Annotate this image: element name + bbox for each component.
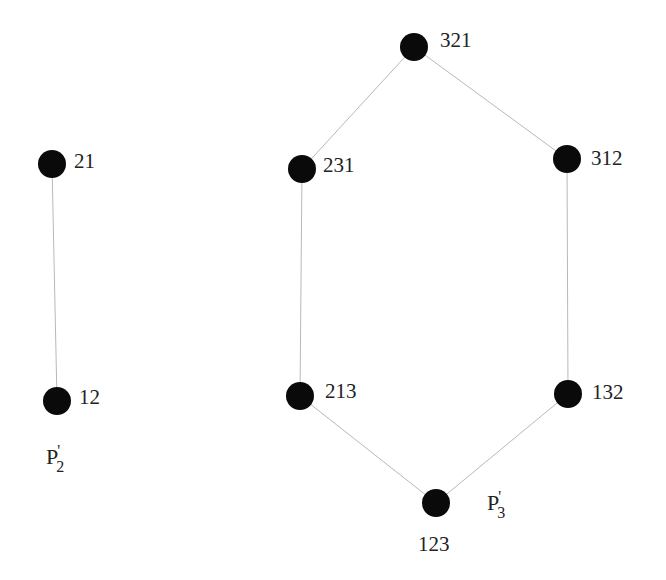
node-12 [43, 387, 71, 415]
nodes-layer [38, 33, 582, 517]
poset-label-p2-sub: 2 [56, 458, 64, 475]
edge-312-132 [567, 159, 568, 394]
hasse-diagram-canvas [0, 0, 666, 580]
poset-label-p2: P2' [46, 446, 69, 468]
node-label-12: 12 [79, 387, 100, 408]
edge-132-123 [436, 394, 568, 503]
poset-label-p3: P3' [487, 492, 510, 514]
node-label-321: 321 [440, 30, 472, 51]
edge-213-123 [300, 396, 436, 503]
node-21 [38, 150, 66, 178]
node-213 [286, 382, 314, 410]
poset-label-p2-prime: ' [57, 442, 60, 459]
node-label-123: 123 [418, 534, 450, 555]
node-312 [553, 145, 581, 173]
poset-label-p3-sub: 3 [497, 504, 505, 521]
edge-231-213 [300, 169, 302, 396]
edges-layer [52, 47, 568, 503]
node-label-132: 132 [592, 382, 624, 403]
node-label-213: 213 [325, 381, 357, 402]
node-132 [554, 380, 582, 408]
node-123 [422, 489, 450, 517]
node-label-231: 231 [323, 155, 355, 176]
node-label-312: 312 [591, 148, 623, 169]
edge-21-12 [52, 164, 57, 401]
node-label-21: 21 [74, 151, 95, 172]
edge-321-312 [414, 47, 567, 159]
edge-321-231 [302, 47, 414, 169]
poset-label-p3-prime: ' [498, 488, 501, 505]
node-231 [288, 155, 316, 183]
node-321 [400, 33, 428, 61]
